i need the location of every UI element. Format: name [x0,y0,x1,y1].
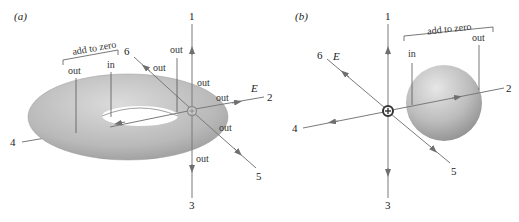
flux-label-out-6: out [153,62,166,73]
field-label-e-b: E [332,50,340,62]
point-charge-b [383,106,393,116]
panel-b-label: (b) [295,10,308,23]
line-3-number-b: 3 [385,199,391,211]
line-4-number: 4 [10,136,16,148]
flux-label-in-b: in [408,48,416,59]
point-charge-a [188,107,197,116]
line-1-number-b: 1 [385,10,391,22]
line-1-number: 1 [189,10,195,22]
field-line-6-b [327,59,385,108]
line-5-number-b: 5 [451,165,457,177]
bracket-label-b: add to zero [427,21,472,37]
line-2-number-b: 2 [506,82,512,94]
field-line-4-b [303,112,384,128]
panel-a-label: (a) [14,10,27,23]
sphere-surface [406,65,482,141]
line-4-number-b: 4 [292,122,298,134]
field-label-e: E [250,82,258,94]
flux-label-out-b: out [472,32,485,43]
flux-label-out-1: out [197,77,210,88]
panel-a: (a) 1 3 2 E 6 5 4 [10,10,273,211]
flux-label-in: in [107,59,115,70]
panel-b: (b) 1 3 6 E 4 5 2 [292,10,512,211]
flux-label-out-top: out [170,44,183,55]
line-6-number: 6 [124,45,130,57]
flux-label-out-2: out [216,92,229,103]
flux-label-out-5: out [219,122,232,133]
line-2-number: 2 [267,91,273,103]
gauss-law-diagram: (a) 1 3 2 E 6 5 4 [0,0,519,222]
line-3-number: 3 [189,199,195,211]
flux-label-out-3: out [196,153,209,164]
flux-label-out-left: out [68,65,81,76]
line-6-number-b: 6 [317,49,323,61]
line-5-number: 5 [256,170,262,182]
